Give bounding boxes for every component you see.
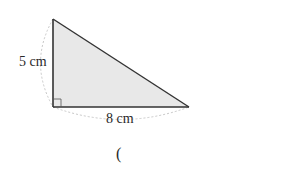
triangle-diagram — [0, 0, 283, 173]
height-label: 5 cm — [19, 54, 47, 70]
answer-paren: ( — [116, 145, 121, 163]
base-label: 8 cm — [106, 111, 134, 127]
